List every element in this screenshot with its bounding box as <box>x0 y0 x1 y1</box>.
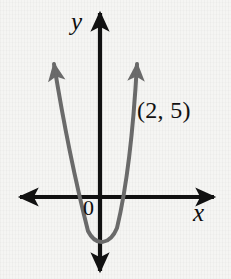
coordinate-plot <box>0 0 231 279</box>
x-axis-label: x <box>193 200 204 225</box>
parabola-curve <box>54 64 137 242</box>
parabola-figure: y x 0 (2, 5) <box>0 0 231 279</box>
y-axis-label: y <box>71 9 82 34</box>
origin-label: 0 <box>83 197 94 219</box>
point-coordinate-label: (2, 5) <box>137 98 191 122</box>
